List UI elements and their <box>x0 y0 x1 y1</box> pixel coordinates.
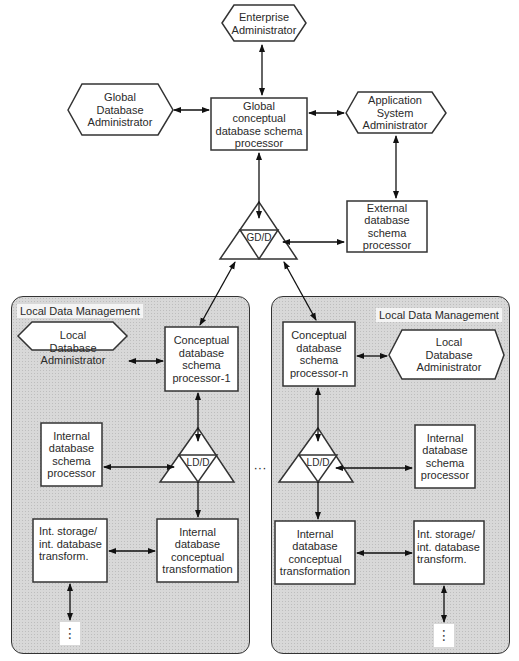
internal-conceptual-transform-n-label: Internal database conceptual transformat… <box>275 521 355 584</box>
gdd-label: GD/D <box>240 231 278 245</box>
app-admin-label: Application System Administrator <box>354 92 436 134</box>
external-schema-processor-label: External database schema processor <box>347 201 427 252</box>
int-storage-1-label: Int. storage/ int. database transform. <box>33 519 107 569</box>
ldd-label-1: LD/D <box>179 456 217 470</box>
global-schema-processor-label: Global conceptual database schema proces… <box>211 99 307 150</box>
enterprise-admin-label: Enterprise Administrator <box>228 6 300 41</box>
ldd-label-n: LD/D <box>299 456 337 470</box>
internal-conceptual-transform-1-label: Internal database conceptual transformat… <box>157 519 238 582</box>
continuation-dots-1: ⋮ <box>60 622 80 645</box>
conceptual-processor-1-label: Conceptual database schema processor-1 <box>165 327 238 391</box>
int-storage-n-label: Int. storage/ int. database transform. <box>414 521 484 573</box>
more-regions-ellipsis: ··· <box>250 462 270 474</box>
continuation-dots-n: ⋮ <box>434 624 454 647</box>
local-db-admin-label-n: Local Database Administrator <box>402 331 496 379</box>
conceptual-processor-n-label: Conceptual database schema processor-n <box>283 322 355 386</box>
internal-schema-processor-1-label: Internal database schema processor <box>41 423 102 486</box>
internal-schema-processor-n-label: Internal database schema processor <box>415 425 475 488</box>
local-db-admin-label-1: Local Database Administrator <box>30 324 116 372</box>
global-db-admin-label: Global Database Administrator <box>80 85 160 135</box>
